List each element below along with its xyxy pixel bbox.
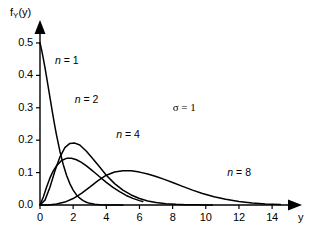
y-axis-title-arg: (y) (18, 6, 31, 18)
curve-n-2 (40, 158, 143, 205)
y-axis-tick-label: 0.2 (0, 133, 33, 145)
curve-label-n-1: n = 1 (55, 54, 79, 66)
y-axis-tick-label: 0.5 (0, 36, 33, 48)
curve-label-value: = 8 (233, 166, 251, 178)
x-axis-tick-label: 2 (59, 211, 87, 223)
x-axis-tick-label: 4 (92, 211, 120, 223)
axes-group (35, 20, 303, 211)
curve-label-value: = 1 (61, 54, 79, 66)
x-axis-title: y (298, 211, 304, 223)
y-axis-tick-label: 0.4 (0, 68, 33, 80)
y-axis-tick-label: 0.1 (0, 166, 33, 178)
curve-label-value: = 2 (81, 93, 99, 105)
chart-curves (40, 43, 280, 205)
y-axis-tick-label: 0.3 (0, 101, 33, 113)
curve-label-n-8: n = 8 (227, 166, 251, 178)
x-axis-tick-label: 10 (192, 211, 220, 223)
y-axis-tick-label: 0.0 (0, 198, 33, 210)
sigma-annotation: σ = 1 (173, 101, 196, 113)
curve-label-n-2: n = 2 (75, 93, 99, 105)
curve-label-value: = 4 (122, 128, 140, 140)
y-axis-arrowhead (35, 20, 46, 34)
chart-plot-area (0, 0, 317, 234)
x-axis-tick-label: 14 (258, 211, 286, 223)
x-axis-tick-label: 8 (159, 211, 187, 223)
curve-label-n-4: n = 4 (116, 128, 140, 140)
chart-figure: fY(y) y σ = 1 024681012140.00.10.20.30.4… (0, 0, 317, 234)
y-axis-title: fY(y) (10, 6, 31, 20)
x-axis-arrowhead (288, 200, 302, 211)
x-axis-tick-label: 0 (26, 211, 54, 223)
x-axis-tick-label: 6 (125, 211, 153, 223)
x-axis-tick-label: 12 (225, 211, 253, 223)
